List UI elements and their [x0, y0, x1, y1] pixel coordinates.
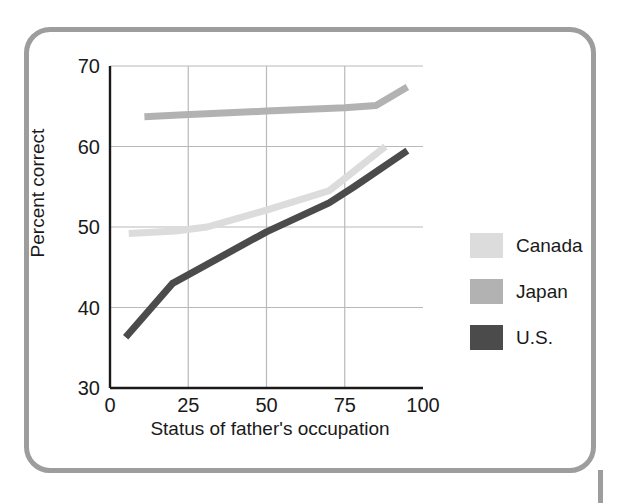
- legend-label: U.S.: [516, 328, 553, 347]
- legend-item-canada[interactable]: Canada: [470, 222, 600, 268]
- x-tick-label: 25: [177, 394, 199, 416]
- y-axis-title: Percent correct: [27, 93, 49, 293]
- legend-item-us[interactable]: U.S.: [470, 314, 600, 360]
- legend-label: Japan: [516, 282, 568, 301]
- y-tick-label: 60: [78, 136, 100, 158]
- x-tick-label: 50: [255, 394, 277, 416]
- x-tick-label: 0: [104, 394, 115, 416]
- legend-swatch: [470, 233, 503, 258]
- legend-label: Canada: [516, 236, 583, 255]
- x-tick-label: 75: [334, 394, 356, 416]
- x-tick-labels: 0255075100: [104, 394, 439, 416]
- series-line-japan: [144, 87, 407, 117]
- y-tick-label: 70: [78, 55, 100, 77]
- chart-legend: CanadaJapanU.S.: [470, 222, 600, 360]
- x-tick-label: 100: [406, 394, 439, 416]
- legend-swatch: [470, 279, 503, 304]
- y-tick-label: 40: [78, 297, 100, 319]
- y-tick-labels: 3040506070: [78, 55, 100, 399]
- legend-swatch: [470, 325, 503, 350]
- figure-root: 0255075100 3040506070 Percent correct St…: [0, 0, 630, 503]
- y-tick-label: 30: [78, 377, 100, 399]
- x-axis-title: Status of father's occupation: [110, 418, 430, 440]
- y-tick-label: 50: [78, 216, 100, 238]
- legend-item-japan[interactable]: Japan: [470, 268, 600, 314]
